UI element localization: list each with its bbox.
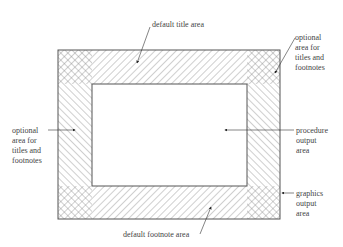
svg-text:graphics: graphics	[296, 189, 323, 198]
svg-text:titles and: titles and	[12, 146, 41, 155]
left-optional-area	[58, 84, 92, 186]
svg-text:output: output	[296, 199, 317, 208]
footnote-area-label: default footnote area	[123, 230, 190, 239]
footnote-area	[92, 186, 247, 219]
svg-text:optional: optional	[295, 33, 322, 42]
svg-text:optional: optional	[12, 126, 39, 135]
right-optional-label: optional area for titles and footnotes	[295, 33, 325, 72]
svg-text:footnotes: footnotes	[12, 156, 42, 165]
svg-text:output: output	[296, 136, 317, 145]
title-area	[92, 50, 247, 84]
svg-text:area for: area for	[12, 136, 37, 145]
right-optional-area	[247, 84, 280, 186]
left-optional-label: optional area for titles and footnotes	[12, 126, 42, 165]
graphics-label: graphics output area	[296, 189, 323, 218]
svg-text:area for: area for	[295, 43, 320, 52]
svg-text:area: area	[296, 209, 310, 218]
svg-text:titles and: titles and	[295, 53, 324, 62]
svg-text:area: area	[296, 146, 310, 155]
svg-text:procedure: procedure	[296, 126, 328, 135]
svg-text:footnotes: footnotes	[295, 63, 325, 72]
output-areas-diagram: default title area default footnote area…	[0, 0, 343, 247]
procedure-output-area	[92, 84, 247, 186]
title-area-label: default title area	[152, 20, 204, 29]
procedure-label: procedure output area	[296, 126, 328, 155]
